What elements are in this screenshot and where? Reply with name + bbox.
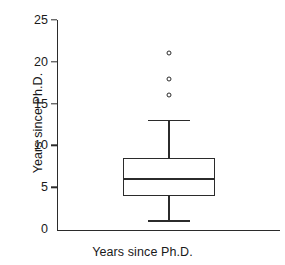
y-tick-label-25: 25 bbox=[16, 14, 48, 27]
median-line bbox=[123, 178, 215, 180]
outlier-point bbox=[167, 76, 172, 81]
y-tick-label-10: 10 bbox=[16, 139, 48, 152]
y-axis-line bbox=[57, 20, 58, 230]
outlier-point bbox=[167, 51, 172, 56]
y-tick-mark-20 bbox=[51, 61, 57, 62]
y-tick-mark-5 bbox=[51, 186, 57, 187]
whisker-upper bbox=[168, 120, 169, 158]
outlier-point bbox=[167, 93, 172, 98]
y-tick-label-0: 0 bbox=[16, 223, 48, 236]
y-tick-mark-15 bbox=[51, 103, 57, 104]
whisker-cap-upper bbox=[148, 120, 190, 122]
x-axis-line bbox=[57, 230, 280, 231]
whisker-cap-lower bbox=[148, 220, 190, 222]
y-axis-tick-labels: 25 20 15 10 5 0 bbox=[16, 0, 48, 265]
x-axis-title: Years since Ph.D. bbox=[0, 245, 285, 259]
y-tick-label-20: 20 bbox=[16, 56, 48, 69]
y-tick-mark-10 bbox=[51, 145, 57, 146]
y-tick-label-5: 5 bbox=[16, 181, 48, 194]
y-tick-mark-25 bbox=[51, 19, 57, 20]
boxplot-figure: Years since Ph.D. 25 20 15 10 5 0 Years … bbox=[0, 0, 285, 265]
box-quartile-rect bbox=[123, 158, 215, 196]
whisker-lower bbox=[168, 196, 169, 221]
y-tick-label-15: 15 bbox=[16, 97, 48, 110]
